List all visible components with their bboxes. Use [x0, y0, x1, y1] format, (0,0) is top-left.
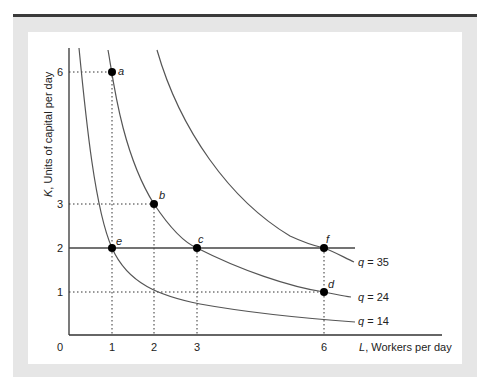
y-tick-1: 1	[57, 286, 63, 298]
isoquant-chart: a b c d e f q = 35 q = 24 q = 14 6 3 2 1…	[0, 0, 482, 377]
point-c	[193, 244, 201, 252]
x-tick-6: 6	[321, 341, 327, 353]
point-e	[108, 244, 116, 252]
label-q14: q = 14	[358, 315, 389, 327]
point-f	[320, 244, 328, 252]
label-c: c	[198, 233, 204, 245]
y-tick-6: 6	[57, 66, 63, 78]
y-tick-3: 3	[57, 198, 63, 210]
data-points	[108, 68, 328, 296]
x-tick-1: 1	[109, 341, 115, 353]
y-axis-title: K, Units of capital per day	[42, 71, 54, 197]
y-tick-2: 2	[57, 242, 63, 254]
guide-lines	[69, 72, 324, 335]
isoquant-q35	[157, 50, 354, 262]
x-tick-3: 3	[194, 341, 200, 353]
label-a: a	[118, 65, 124, 77]
point-d	[320, 288, 328, 296]
x-axis-title: L, Workers per day	[359, 341, 452, 353]
label-q35: q = 35	[358, 256, 389, 268]
label-f: f	[326, 233, 330, 245]
point-b	[150, 200, 158, 208]
isoquant-q14	[79, 48, 355, 322]
label-d: d	[328, 278, 335, 290]
isoquant-q24	[108, 50, 351, 297]
x-tick-2: 2	[151, 341, 157, 353]
label-e: e	[116, 235, 122, 247]
label-b: b	[159, 189, 165, 201]
point-a	[108, 68, 116, 76]
origin-label: 0	[57, 341, 63, 353]
label-q24: q = 24	[358, 291, 389, 303]
